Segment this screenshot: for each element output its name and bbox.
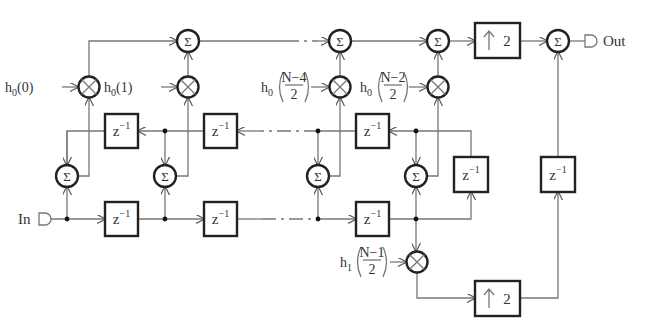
sigma-symbol: Σ xyxy=(412,169,420,184)
svg-text:N−4: N−4 xyxy=(281,70,306,85)
sigma-symbol: Σ xyxy=(554,34,562,49)
svg-text:2: 2 xyxy=(369,262,376,277)
coefficient-h0-0: h0(0) xyxy=(5,80,34,98)
output-port: Out xyxy=(585,33,626,49)
svg-text:h0(0): h0(0) xyxy=(5,80,34,98)
summer-low-2: Σ xyxy=(154,165,176,187)
summer-low-4: Σ xyxy=(405,165,427,187)
svg-text:h0: h0 xyxy=(360,80,372,98)
multiplier-icon xyxy=(428,77,449,98)
sigma-symbol: Σ xyxy=(434,34,442,49)
input-port: In xyxy=(18,211,51,227)
output-label: Out xyxy=(603,33,626,49)
delay-block-vertical: z−1 xyxy=(454,157,488,192)
delay-block: z−1 xyxy=(204,202,237,236)
coefficient-h0-n4: h0 N−4 2 xyxy=(261,70,309,102)
multiplier-icon xyxy=(330,77,351,98)
delay-block: z−1 xyxy=(204,114,237,148)
delay-block-output-branch: z−1 xyxy=(541,157,575,192)
delay-block: z−1 xyxy=(105,114,138,148)
multiplier-icon xyxy=(79,77,100,98)
delay-block: z−1 xyxy=(356,114,389,148)
coefficient-h0-n2: h0 N−2 2 xyxy=(360,70,408,102)
coefficient-h0-1: h0(1) xyxy=(104,80,133,98)
coefficient-h1-n1: h1 N−1 2 xyxy=(340,245,387,277)
delay-block: z−1 xyxy=(105,202,138,236)
sigma-symbol: Σ xyxy=(314,169,322,184)
svg-text:N−2: N−2 xyxy=(380,70,405,85)
svg-text:h1: h1 xyxy=(340,255,352,273)
sigma-symbol: Σ xyxy=(161,169,169,184)
svg-text:N−1: N−1 xyxy=(359,245,384,260)
polyphase-filter-diagram: In Out Σ Σ Σ Σ Σ Σ Σ Σ xyxy=(0,0,649,329)
upsampler-bottom: 2 xyxy=(475,281,520,316)
sigma-symbol: Σ xyxy=(63,169,71,184)
summer-top-3: Σ xyxy=(427,30,449,52)
upsampler-top: 2 xyxy=(475,23,520,58)
svg-text:2: 2 xyxy=(291,87,298,102)
summer-low-3: Σ xyxy=(307,165,329,187)
summer-top-1: Σ xyxy=(177,30,199,52)
summer-top-2: Σ xyxy=(329,30,351,52)
svg-text:2: 2 xyxy=(390,87,397,102)
svg-text:2: 2 xyxy=(503,33,511,49)
delay-block: z−1 xyxy=(356,202,389,236)
sigma-symbol: Σ xyxy=(336,34,344,49)
summer-low-1: Σ xyxy=(56,165,78,187)
svg-text:2: 2 xyxy=(503,291,511,307)
multiplier-icon xyxy=(407,252,428,273)
summer-output: Σ xyxy=(547,30,569,52)
sigma-symbol: Σ xyxy=(184,34,192,49)
input-label: In xyxy=(18,211,31,227)
multiplier-icon xyxy=(178,77,199,98)
svg-text:h0(1): h0(1) xyxy=(104,80,133,98)
svg-text:h0: h0 xyxy=(261,80,273,98)
